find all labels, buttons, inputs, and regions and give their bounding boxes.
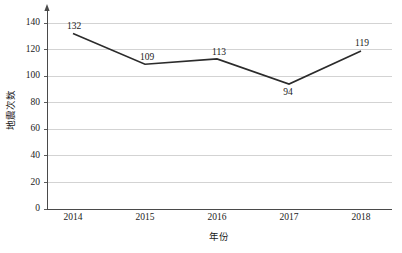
data-label-2016: 113 [212, 47, 226, 57]
y-axis: 140 120 100 80 60 40 20 0 [26, 4, 50, 213]
y-tick-label-120: 120 [26, 44, 41, 54]
y-axis-title: 地震次数 [5, 90, 16, 130]
x-axis-title: 年份 [209, 231, 229, 242]
x-tick-label-2014: 2014 [64, 212, 83, 222]
x-tick-label-2017: 2017 [280, 212, 299, 222]
data-label-2018: 119 [355, 38, 369, 48]
data-label-2014: 132 [67, 21, 82, 31]
y-axis-arrow-icon [44, 4, 49, 11]
y-tick-label-80: 80 [31, 97, 41, 107]
y-tick-label-60: 60 [31, 123, 41, 133]
data-label-2015: 109 [140, 52, 155, 62]
chart-canvas: 140 120 100 80 60 40 20 0 2014 2015 2016… [0, 0, 402, 253]
y-tick-marks [44, 23, 48, 209]
x-tick-label-2016: 2016 [208, 212, 227, 222]
x-tick-label-2015: 2015 [136, 212, 155, 222]
x-axis: 2014 2015 2016 2017 2018 [47, 209, 392, 222]
y-tick-label-20: 20 [31, 177, 41, 187]
x-tick-label-2018: 2018 [352, 212, 371, 222]
y-tick-label-100: 100 [26, 70, 41, 80]
y-tick-label-140: 140 [26, 17, 41, 27]
line-chart: 140 120 100 80 60 40 20 0 2014 2015 2016… [0, 0, 402, 253]
data-label-2017: 94 [283, 87, 293, 97]
y-tick-label-0: 0 [35, 203, 40, 213]
y-tick-label-40: 40 [31, 150, 41, 160]
series-line-earthquake-count [73, 34, 361, 85]
